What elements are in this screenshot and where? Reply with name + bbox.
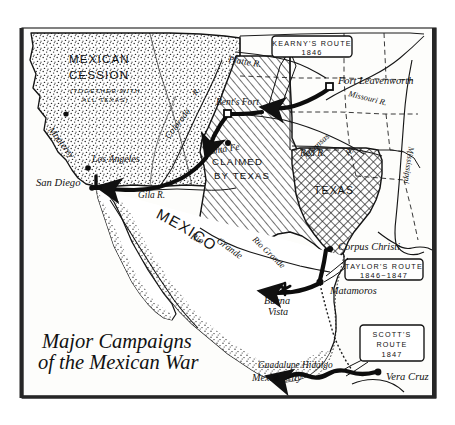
label-buena-vista-line2: Vista bbox=[268, 306, 288, 317]
marker-san-diego bbox=[89, 185, 95, 191]
map-figure: MEXICAN CESSION (TOGETHER WITH ALL TEXAS… bbox=[0, 0, 455, 425]
marker-monterey bbox=[63, 111, 68, 116]
marker-bents-fort bbox=[224, 110, 231, 117]
label-bents-fort: Bent's Fort bbox=[216, 96, 259, 107]
label-corpus-christi: Corpus Christi bbox=[338, 241, 400, 252]
label-buena-vista-line1: Buena bbox=[264, 295, 290, 306]
label-guadalupe-hidalgo: Guadalupe Hidalgo bbox=[258, 360, 333, 370]
label-mexican-cession-sub2: ALL TEXAS) bbox=[82, 96, 129, 103]
label-matamoros: Matamoros bbox=[329, 285, 377, 296]
label-texas: TEXAS bbox=[314, 185, 354, 196]
label-river-red: Red R. bbox=[299, 147, 326, 158]
marker-matamoros bbox=[316, 278, 323, 285]
marker-vera-cruz bbox=[375, 369, 382, 376]
label-mexican-cession-line1: MEXICAN bbox=[69, 53, 130, 65]
marker-fort-leavenworth bbox=[326, 83, 333, 90]
label-mexican-cession-line2: CESSION bbox=[69, 69, 129, 81]
label-mexican-cession-sub1: (TOGETHER WITH bbox=[70, 87, 141, 94]
callout-taylor-line2: 1846~1847 bbox=[360, 271, 408, 280]
label-los-angeles: Los Angeles bbox=[91, 153, 140, 164]
map-title: Major Campaigns of the Mexican War bbox=[38, 330, 199, 374]
callout-taylor-line1: TAYLOR'S ROUTE bbox=[345, 262, 423, 271]
callout-scott-line2: ROUTE bbox=[376, 340, 407, 349]
callout-scott-line3: 1847 bbox=[381, 350, 402, 359]
label-claimed-by-texas-line2: BY TEXAS bbox=[214, 170, 270, 181]
marker-los-angeles bbox=[85, 165, 91, 171]
marker-corpus-christi bbox=[327, 246, 333, 252]
callout-kearny-line2: 1846 bbox=[301, 48, 322, 57]
label-san-diego: San Diego bbox=[36, 177, 80, 188]
label-mexico-city: Mexico City bbox=[251, 372, 302, 383]
callout-scott-line1: SCOTT'S bbox=[373, 330, 412, 339]
label-claimed-by-texas-line1: CLAIMED bbox=[212, 156, 263, 167]
label-vera-cruz: Vera Cruz bbox=[386, 371, 429, 382]
label-river-gila: Gila R. bbox=[138, 190, 165, 200]
map-title-line2: of the Mexican War bbox=[38, 351, 199, 374]
label-fort-leavenworth: Fort Leavenworth bbox=[337, 75, 413, 86]
map-title-line1: Major Campaigns bbox=[41, 330, 192, 353]
callout-kearny-line1: KEARNY'S ROUTE bbox=[272, 39, 352, 48]
